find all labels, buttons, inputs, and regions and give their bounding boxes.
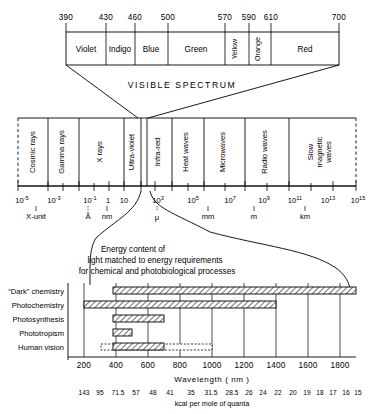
em-band-infra-red: Infra-red: [153, 138, 162, 167]
em-band-slow-line-3: waves: [324, 141, 333, 164]
kcal-axis-label: kcal per mole of quanta: [175, 399, 250, 408]
bar-phototropism: [113, 329, 132, 336]
callout-line-1: Energy content of: [101, 245, 166, 254]
em-band-dividers: [48, 118, 289, 186]
svg-text:1011: 1011: [288, 195, 302, 205]
kcal-value: 24: [259, 389, 267, 396]
visible-tick-label: 500: [161, 13, 176, 22]
kcal-value: 48: [149, 389, 157, 396]
band-label-violet: Violet: [76, 45, 97, 54]
bar-dark-chemistry: [113, 287, 356, 294]
em-unit-micron: μ: [155, 213, 159, 222]
visible-spectrum-caption: VISIBLE SPECTRUM: [128, 80, 237, 90]
em-exp-8: 109: [258, 195, 270, 205]
row-label-phototropism: Phototropism: [19, 329, 64, 338]
visible-spectrum-panel: 390 430 460 500 570 590 610 700 Violet I…: [59, 13, 347, 118]
em-exp-3: 1: [106, 196, 110, 205]
em-exp-1: 10-3: [47, 195, 60, 205]
svg-text:10-5: 10-5: [15, 195, 28, 205]
band-label-orange: Orange: [253, 37, 262, 61]
em-unit-km: km: [300, 212, 310, 221]
kcal-value: 16: [342, 389, 350, 396]
visible-spectrum-funnel: [66, 65, 339, 118]
kcal-value: 19: [303, 389, 311, 396]
em-exp-2: 10-1: [83, 195, 96, 205]
em-unit-leaders: [36, 206, 305, 211]
spectrum-diagram: 390 430 460 500 570 590 610 700 Violet I…: [0, 0, 371, 414]
svg-text:1015: 1015: [351, 195, 366, 205]
wavelength-tick: 1800: [330, 361, 349, 370]
kcal-value: 22: [274, 389, 282, 396]
visible-tick-label: 570: [218, 13, 233, 22]
kcal-value: 41: [166, 389, 174, 396]
svg-text:10-3: 10-3: [47, 195, 60, 205]
wavelength-tick: 1600: [298, 361, 317, 370]
kcal-value: 95: [96, 389, 104, 396]
row-label-dark-chemistry: “Dark” chemistry: [8, 287, 64, 296]
em-exp-11: 1015: [351, 195, 366, 205]
wavelength-tick: 800: [173, 361, 188, 370]
em-exp-9: 1011: [288, 195, 302, 205]
kcal-value: 71.5: [112, 389, 125, 396]
em-unit-labels: X-unit Å nm μ mm m km: [26, 212, 310, 222]
kcal-value: 15: [354, 389, 362, 396]
wavelength-tick: 200: [77, 361, 92, 370]
visible-tick-labels: 390 430 460 500 570 590 610 700: [59, 13, 347, 22]
em-unit-nm: nm: [102, 212, 113, 221]
em-band-cosmic-rays: Cosmic rays: [28, 131, 37, 173]
process-row-labels: “Dark” chemistry Photochemistry Photosyn…: [8, 287, 64, 352]
band-label-green: Green: [185, 45, 208, 54]
wavelength-axis-label: Wavelength ( nm ): [174, 375, 249, 384]
em-exp-10: 1013: [321, 195, 336, 205]
row-label-photosynthesis: Photosynthesis: [13, 315, 65, 324]
svg-text:107: 107: [224, 195, 236, 205]
wavelength-tick: 1400: [266, 361, 285, 370]
em-band-x-rays: X rays: [95, 141, 104, 163]
band-label-red: Red: [297, 45, 312, 54]
band-label-blue: Blue: [143, 45, 160, 54]
kcal-value: 20: [289, 389, 297, 396]
row-label-photochemistry: Photochemistry: [12, 301, 65, 310]
em-unit-m: m: [251, 212, 257, 221]
wavelength-tick: 1000: [202, 361, 221, 370]
kcal-value: 35: [187, 389, 195, 396]
svg-text:109: 109: [258, 195, 270, 205]
em-band-heat-waves: Heat waves: [181, 132, 190, 172]
kcal-value: 31.5: [205, 389, 218, 396]
em-band-labels: Cosmic rays Gamma rays X rays Ultra-viol…: [28, 130, 333, 174]
figure-root: 390 430 460 500 570 590 610 700 Violet I…: [0, 0, 371, 414]
wavelength-tick-labels: 200 400 600 800 1000 1200 1400 1600 1800: [77, 361, 350, 370]
em-exponent-labels: 10-5 10-3 10-1 1 10 103 105 107 109: [15, 195, 365, 205]
visible-tick-label: 590: [242, 13, 257, 22]
callout-line-3: for chemical and photobiological process…: [79, 267, 236, 276]
em-exp-0: 10-5: [15, 195, 28, 205]
em-band-slow-line-1: Slow: [306, 143, 315, 160]
svg-text:105: 105: [187, 195, 199, 205]
row-label-human-vision: Human vision: [18, 343, 64, 352]
svg-text:10-1: 10-1: [83, 195, 96, 205]
band-label-yellow: Yellow: [230, 38, 239, 59]
bar-photosynthesis: [113, 315, 164, 322]
visible-tick-label: 390: [59, 13, 74, 22]
svg-text:1013: 1013: [321, 195, 336, 205]
em-exp-4: 10: [120, 196, 128, 205]
process-chart: “Dark” chemistry Photochemistry Photosyn…: [8, 283, 362, 408]
kcal-value: 18: [316, 389, 324, 396]
visible-tick-marks: [66, 23, 339, 32]
callout-line-2: light matched to energy requirements: [87, 256, 222, 265]
band-label-indigo: Indigo: [109, 45, 132, 54]
visible-tick-label: 700: [332, 13, 347, 22]
em-spectrum-panel: Cosmic rays Gamma rays X rays Ultra-viol…: [15, 118, 365, 222]
wavelength-tick: 400: [109, 361, 124, 370]
em-band-microwaves: Microwaves: [218, 132, 227, 172]
visible-tick-label: 460: [128, 13, 143, 22]
bar-photochemistry: [84, 301, 276, 308]
kcal-value: 28.5: [226, 389, 239, 396]
em-unit-mm: mm: [202, 212, 215, 221]
em-exp-6: 105: [187, 195, 199, 205]
em-band-radio-waves: Radio waves: [260, 130, 269, 174]
em-band-slow-magnetic-waves: Slow magnetic waves: [306, 136, 333, 167]
em-unit-x-unit: X-unit: [26, 212, 47, 221]
wavelength-tick: 1200: [234, 361, 253, 370]
em-band-slow-line-2: magnetic: [315, 136, 324, 167]
